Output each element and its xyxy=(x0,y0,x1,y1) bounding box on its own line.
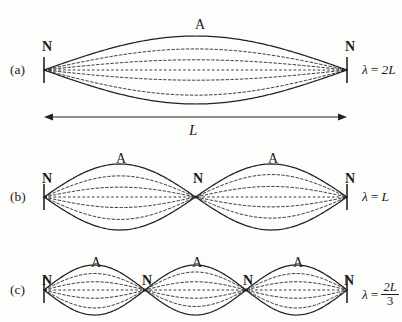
node-label: N xyxy=(42,274,52,288)
antinode-label: A xyxy=(116,152,126,166)
panel-c-waves xyxy=(44,265,347,315)
node-label: N xyxy=(193,172,203,186)
string-length-label: L xyxy=(189,123,197,138)
solid-waveform-upper xyxy=(44,36,347,70)
antinode-label: A xyxy=(91,256,101,270)
wavelength-label-a: λ=2L xyxy=(362,63,396,77)
fraction-numerator-c: 2L xyxy=(381,281,398,295)
standing-wave-diagram xyxy=(0,0,402,322)
fraction-denominator-c: 3 xyxy=(385,295,395,308)
length-arrow-head-right xyxy=(338,113,347,120)
node-label: N xyxy=(345,172,355,186)
lambda-symbol-a: λ xyxy=(362,63,368,77)
dashed-waveform xyxy=(44,70,347,95)
wavelength-fraction-c: 2L3 xyxy=(381,281,398,308)
length-arrow xyxy=(44,113,347,120)
panel-a-waves xyxy=(44,36,347,104)
antinode-label: A xyxy=(268,152,278,166)
interior-node-marker xyxy=(245,289,248,292)
node-label: N xyxy=(42,172,52,186)
node-label: N xyxy=(345,40,355,54)
panel-tag-c: (c) xyxy=(10,283,25,297)
equals-sign-b: = xyxy=(370,190,380,204)
wavelength-value-b: L xyxy=(381,190,389,204)
dashed-waveform xyxy=(44,49,347,70)
node-label: N xyxy=(42,40,52,54)
lambda-symbol-b: λ xyxy=(362,190,368,204)
antinode-label: A xyxy=(195,18,205,32)
node-label: N xyxy=(142,274,152,288)
length-arrow-head-left xyxy=(44,113,53,120)
dashed-waveform xyxy=(44,60,347,70)
antinode-label: A xyxy=(293,256,303,270)
panel-tag-b: (b) xyxy=(10,190,26,204)
solid-waveform-lower xyxy=(44,70,347,104)
interior-node-marker xyxy=(194,196,197,199)
wavelength-label-b: λ=L xyxy=(362,190,389,204)
panel-tag-a: (a) xyxy=(10,63,25,77)
node-label: N xyxy=(243,274,253,288)
wavelength-label-c: λ=2L3 xyxy=(362,281,399,308)
antinode-label: A xyxy=(192,256,202,270)
equals-sign-a: = xyxy=(370,63,380,77)
wavelength-value-a: 2L xyxy=(381,63,395,77)
dashed-waveform xyxy=(44,70,347,80)
node-label: N xyxy=(344,274,354,288)
lambda-symbol-c: λ xyxy=(362,288,368,302)
equals-sign-c: = xyxy=(370,288,380,302)
interior-node-marker xyxy=(144,289,147,292)
